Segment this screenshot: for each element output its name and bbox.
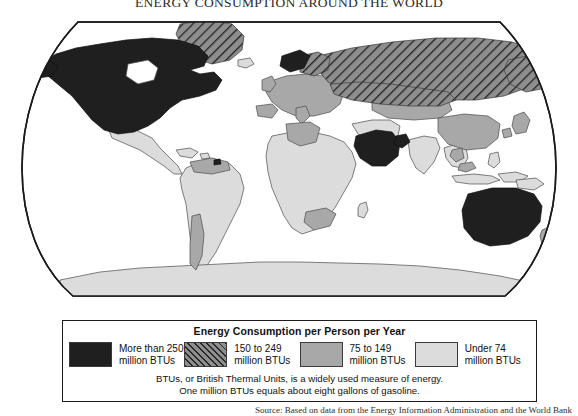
legend-swatch-under-74: [415, 342, 458, 367]
legend-label-75-149: 75 to 149 million BTUs: [350, 343, 406, 366]
world-map: [0, 8, 578, 318]
legend-label-line1: 75 to 149: [350, 343, 406, 355]
legend-item-150-249: 150 to 249 million BTUs: [184, 342, 299, 367]
legend-note-line2: One million BTUs equals about eight gall…: [63, 385, 536, 397]
legend-item-75-149: 75 to 149 million BTUs: [300, 342, 415, 367]
legend-swatch-more-than-250: [69, 342, 112, 367]
legend-swatch-75-149: [300, 342, 343, 367]
legend-item-more-than-250: More than 250 million BTUs: [69, 342, 184, 367]
legend-item-under-74: Under 74 million BTUs: [415, 342, 530, 367]
legend-label-line2: million BTUs: [234, 355, 290, 367]
source-attribution: Source: Based on data from the Energy In…: [255, 405, 572, 416]
map-legend: Energy Consumption per Person per Year M…: [62, 320, 537, 402]
legend-label-line2: million BTUs: [350, 355, 406, 367]
legend-label-line2: million BTUs: [465, 355, 521, 367]
legend-label-more-than-250: More than 250 million BTUs: [119, 343, 184, 366]
page-title: ENERGY CONSUMPTION AROUND THE WORLD: [0, 0, 578, 8]
legend-label-150-249: 150 to 249 million BTUs: [234, 343, 290, 366]
legend-label-under-74: Under 74 million BTUs: [465, 343, 521, 366]
legend-label-line1: 150 to 249: [234, 343, 290, 355]
legend-label-line2: million BTUs: [119, 355, 184, 367]
legend-swatch-150-249: [184, 342, 227, 367]
legend-label-line1: Under 74: [465, 343, 521, 355]
legend-heading: Energy Consumption per Person per Year: [63, 325, 536, 337]
legend-note: BTUs, or British Thermal Units, is a wid…: [63, 373, 536, 396]
legend-label-line1: More than 250: [119, 343, 184, 355]
legend-note-line1: BTUs, or British Thermal Units, is a wid…: [63, 373, 536, 385]
legend-swatch-row: More than 250 million BTUs 150 to 249 mi…: [63, 342, 536, 367]
